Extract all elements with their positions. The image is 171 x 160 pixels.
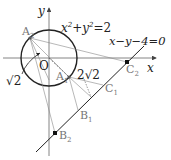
label-a1: A1 bbox=[56, 71, 68, 85]
distance-label: 2√2 bbox=[77, 69, 100, 81]
label-c1: C1 bbox=[105, 83, 118, 97]
x-axis-label: x bbox=[147, 62, 154, 74]
diagram: y x O x2+y2=2 x−y−4=0 √2 2√2 A2 A1 B1 B2… bbox=[0, 0, 171, 160]
origin-label: O bbox=[39, 60, 49, 72]
line-equation: x−y−4=0 bbox=[109, 36, 166, 48]
label-b1: B1 bbox=[80, 110, 93, 124]
radius-label: √2 bbox=[6, 75, 21, 87]
y-axis-label: y bbox=[38, 5, 45, 17]
circle-equation: x2+y2=2 bbox=[61, 22, 111, 34]
label-c2: C2 bbox=[126, 64, 139, 78]
point-b2 bbox=[53, 131, 57, 135]
label-a2: A2 bbox=[22, 26, 34, 40]
label-b2: B2 bbox=[59, 130, 72, 144]
